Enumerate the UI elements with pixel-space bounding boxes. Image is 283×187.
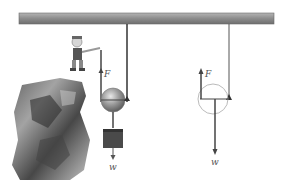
movable-pulley	[101, 88, 130, 112]
right-rope	[226, 24, 232, 100]
right-weight-arrow: w	[211, 99, 219, 167]
right-force-label: F	[204, 69, 212, 79]
right-force-arrow: F	[199, 68, 213, 99]
right-weight-label: w	[211, 157, 219, 167]
left-weight-label: w	[109, 162, 117, 172]
ceiling-beam	[19, 13, 274, 24]
cliff	[12, 78, 90, 180]
left-force-label: F	[103, 69, 111, 79]
weight-block	[103, 129, 123, 148]
person	[70, 36, 100, 71]
left-weight-arrow: w	[109, 148, 117, 172]
pulley-outline	[198, 84, 229, 114]
pulley-diagram: F w F w	[0, 0, 283, 187]
